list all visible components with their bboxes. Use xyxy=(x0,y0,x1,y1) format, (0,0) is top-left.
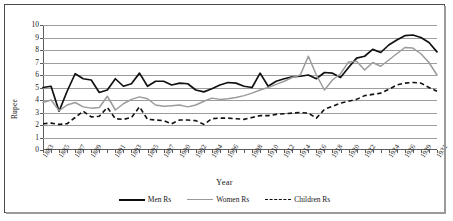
y-tick-label: 2 xyxy=(35,121,39,129)
x-tick-mark xyxy=(244,150,245,153)
legend-swatch-men-icon xyxy=(119,199,145,201)
legend-label-children: Children Rs xyxy=(294,195,330,204)
y-tick-label: 5 xyxy=(35,84,39,92)
y-tick-label: 6 xyxy=(35,71,39,79)
y-tick-label: 3 xyxy=(35,109,39,117)
y-tick-label: 8 xyxy=(35,46,39,54)
legend-swatch-women-icon xyxy=(187,199,213,200)
y-tick-label: 7 xyxy=(35,59,39,67)
y-tick-label: 4 xyxy=(35,96,39,104)
y-tick-label: 0 xyxy=(35,146,39,154)
chart-legend: Men Rs Women Rs Children Rs xyxy=(5,195,444,204)
y-axis-title: Rupee xyxy=(10,98,19,118)
x-tick-mark xyxy=(381,150,382,153)
chart-frame: Rupee 012345678910 188318851887188918911… xyxy=(4,4,445,213)
x-tick-label: 1931 xyxy=(435,143,449,159)
series-line-women-rs xyxy=(43,48,437,111)
x-axis-title: Year xyxy=(5,177,444,187)
x-tick-mark xyxy=(107,150,108,153)
plot-area: 012345678910 188318851887188918911893189… xyxy=(43,25,437,150)
series-lines xyxy=(43,25,437,150)
legend-label-men: Men Rs xyxy=(148,195,172,204)
legend-item-men: Men Rs xyxy=(119,195,172,204)
legend-label-women: Women Rs xyxy=(216,195,249,204)
chart-screenshot: Rupee 012345678910 188318851887188918911… xyxy=(0,0,453,221)
y-tick-label: 10 xyxy=(32,21,40,29)
legend-swatch-children-icon xyxy=(265,199,291,200)
legend-item-women: Women Rs xyxy=(187,195,249,204)
y-tick-label: 9 xyxy=(35,34,39,42)
series-line-men-rs xyxy=(43,35,437,111)
y-tick-label: 1 xyxy=(35,134,39,142)
legend-item-children: Children Rs xyxy=(265,195,330,204)
